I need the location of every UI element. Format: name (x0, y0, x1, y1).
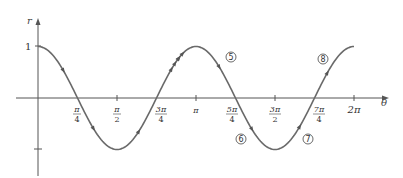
circled-label-6: 6 (236, 134, 246, 144)
tick-label-7pi-over-4: 7π 4 (313, 105, 325, 124)
theta-axis-label: θ (381, 97, 387, 108)
polar-rect-graph: r θ 1 π 4 π 2 3π 4 π 5π 4 3π 2 7π 4 (0, 0, 403, 178)
tick-label-pi-over-4: π 4 (73, 105, 81, 124)
svg-text:7: 7 (305, 135, 310, 144)
circled-label-7: 7 (303, 134, 313, 144)
tick-label-3pi-over-2: 3π 2 (269, 105, 281, 124)
svg-text:2: 2 (114, 115, 119, 124)
svg-text:3π: 3π (270, 105, 281, 114)
direction-arrows (60, 50, 330, 134)
svg-text:7π: 7π (314, 105, 325, 114)
svg-text:2: 2 (272, 115, 277, 124)
svg-text:6: 6 (238, 135, 243, 144)
tick-label-pi-over-2: π 2 (113, 105, 121, 124)
tick-label-pi: π (192, 106, 199, 115)
svg-text:4: 4 (158, 115, 163, 124)
svg-text:3π: 3π (156, 105, 167, 114)
svg-text:4: 4 (74, 115, 79, 124)
tick-label-3pi-over-4: 3π 4 (155, 105, 167, 124)
svg-text:4: 4 (316, 115, 321, 124)
svg-text:4: 4 (229, 115, 234, 124)
r-axis-label: r (27, 15, 33, 26)
svg-text:5: 5 (228, 53, 233, 62)
svg-text:5π: 5π (227, 105, 238, 114)
circled-label-8: 8 (318, 54, 328, 64)
svg-text:8: 8 (320, 55, 325, 64)
r-axis-arrow-icon (36, 18, 41, 25)
tick-label-2pi: 2π (347, 104, 361, 115)
tick-label-5pi-over-4: 5π 4 (226, 105, 238, 124)
r-tick-label-1: 1 (25, 41, 31, 52)
svg-text:π: π (113, 105, 120, 114)
svg-text:π: π (73, 105, 80, 114)
circled-label-5: 5 (226, 52, 236, 62)
